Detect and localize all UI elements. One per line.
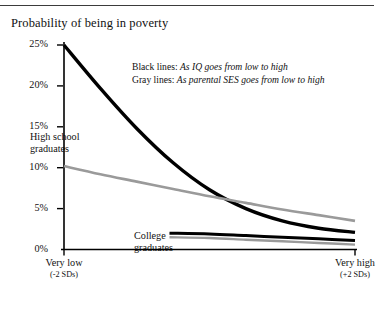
series-line-1: [64, 45, 355, 232]
series-line-2: [64, 166, 355, 221]
